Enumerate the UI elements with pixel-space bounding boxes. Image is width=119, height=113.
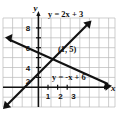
x-tick-label-1: 1 — [46, 92, 51, 101]
equation-label-line1: y = 2x + 3 — [48, 9, 83, 19]
graph-figure: y x 8 6 4 2 1 2 3 y = 2x + 3 y = -x + 6 … — [0, 0, 119, 113]
x-axis-label: x — [110, 83, 116, 93]
y-axis-label: y — [33, 3, 39, 13]
y-tick-label-8: 8 — [26, 24, 31, 33]
intersection-point-label: (1, 5) — [58, 44, 77, 54]
y-tick-label-6: 6 — [26, 44, 31, 53]
equation-label-line2: y = -x + 6 — [52, 72, 86, 82]
x-tick-label-2: 2 — [58, 92, 63, 101]
x-tick-label-3: 3 — [71, 92, 76, 101]
y-tick-label-2: 2 — [26, 77, 31, 86]
y-tick-label-4: 4 — [26, 64, 31, 73]
coordinate-plane-svg: y x 8 6 4 2 1 2 3 y = 2x + 3 y = -x + 6 … — [0, 0, 119, 113]
